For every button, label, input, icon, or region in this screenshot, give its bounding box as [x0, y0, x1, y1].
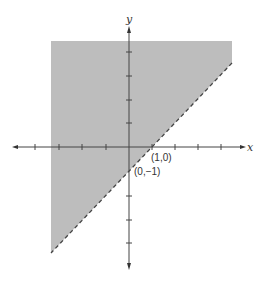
x-axis-left-arrow-icon [12, 145, 18, 149]
x-axis-label: x [247, 141, 254, 154]
x-axis-right-arrow-icon [240, 145, 246, 149]
y-axis-up-arrow-icon [127, 26, 131, 33]
point-label-0-neg1: (0,−1) [134, 166, 160, 177]
inequality-graph: x y (1,0) (0,−1) [0, 0, 261, 281]
point-label-1-0: (1,0) [151, 152, 172, 163]
y-axis-down-arrow-icon [127, 263, 131, 270]
y-axis-label: y [125, 13, 133, 26]
